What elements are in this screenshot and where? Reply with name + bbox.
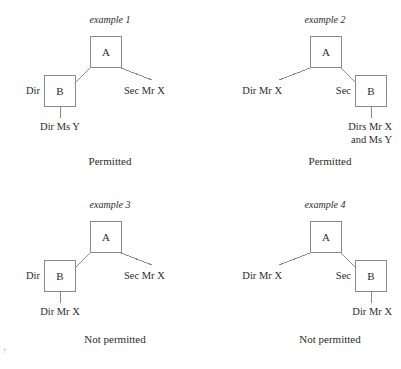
example-3-other-branch-label: Sec Mr X — [124, 269, 165, 282]
example-2-child-officer-line1: Dirs Mr X — [348, 120, 392, 133]
example-4-node-a[interactable]: A — [310, 221, 342, 253]
example-1-other-branch-label: Sec Mr X — [124, 84, 165, 97]
example-1-branch-role-label: Dir — [26, 84, 40, 97]
ex2-parent-to-child-line — [341, 68, 355, 82]
example-3-node-b[interactable]: B — [44, 260, 76, 292]
example-4-label: example 4 — [305, 199, 346, 210]
example-2-label: example 2 — [305, 14, 346, 25]
example-3-branch-role-label: Dir — [26, 269, 40, 282]
ex4-parent-to-child-line — [341, 253, 355, 267]
example-2-node-a[interactable]: A — [310, 36, 342, 68]
example-1-child-officer-label: Dir Ms Y — [40, 120, 80, 133]
example-3-caption: Not permitted — [84, 333, 145, 345]
example-3-child-officer-label: Dir Mr X — [40, 305, 80, 318]
example-4-other-branch-label: Dir Mr X — [242, 269, 282, 282]
example-2-caption: Permitted — [309, 155, 352, 167]
example-2-branch-role-label: Sec — [336, 84, 351, 97]
example-3-node-a[interactable]: A — [90, 221, 122, 253]
ex4-parent-to-dir-line — [279, 253, 310, 265]
ex3-parent-to-child-line — [76, 253, 90, 267]
example-4-caption: Not permitted — [299, 333, 360, 345]
ex2-parent-to-dir-line — [279, 68, 310, 80]
diagram-canvas: example 1 A B Dir Sec Mr X Dir Ms Y Perm… — [0, 0, 401, 369]
example-1-label: example 1 — [90, 14, 131, 25]
ex1-parent-to-sec-line — [121, 68, 152, 80]
example-2-other-branch-label: Dir Mr X — [242, 84, 282, 97]
example-4-node-b[interactable]: B — [355, 260, 387, 292]
example-1-node-b[interactable]: B — [44, 75, 76, 107]
example-1-caption: Permitted — [89, 155, 132, 167]
ex1-parent-to-child-line — [76, 68, 90, 82]
example-2-node-b[interactable]: B — [355, 75, 387, 107]
ex3-parent-to-sec-line — [121, 253, 152, 265]
example-2-child-officer-line2: and Ms Y — [351, 133, 392, 146]
corner-registration-mark — [3, 348, 7, 353]
example-4-child-officer-label: Dir Mr X — [352, 305, 392, 318]
example-1-node-a[interactable]: A — [90, 36, 122, 68]
example-4-branch-role-label: Sec — [336, 269, 351, 282]
example-3-label: example 3 — [90, 199, 131, 210]
